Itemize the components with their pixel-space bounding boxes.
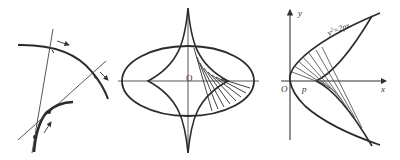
p-label: p <box>301 84 307 94</box>
point-marker <box>47 110 51 114</box>
figure-canvas: O y x O p y2=2px <box>0 0 400 160</box>
equation-label: y2=2px <box>325 19 352 38</box>
panel-curve-evolute <box>18 29 108 153</box>
arrow-icon <box>44 122 51 133</box>
involute-curve <box>18 45 108 99</box>
evolute-curve <box>34 102 73 152</box>
point-marker <box>33 135 37 139</box>
origin-label: O <box>186 73 193 83</box>
panel-parabola-evolute: y x O p y2=2px <box>281 8 386 146</box>
svg-text:y2=2px: y2=2px <box>325 19 352 38</box>
tick-mark <box>52 50 54 53</box>
normal-line-1 <box>32 29 53 153</box>
normal-line-2 <box>18 61 106 140</box>
panel-ellipse-evolute: O <box>118 8 259 153</box>
arrow-icon <box>57 41 69 45</box>
arrow-icon <box>100 72 108 80</box>
x-axis-label: x <box>380 84 385 94</box>
y-axis-label: y <box>297 8 302 18</box>
origin-label: O <box>281 84 288 94</box>
